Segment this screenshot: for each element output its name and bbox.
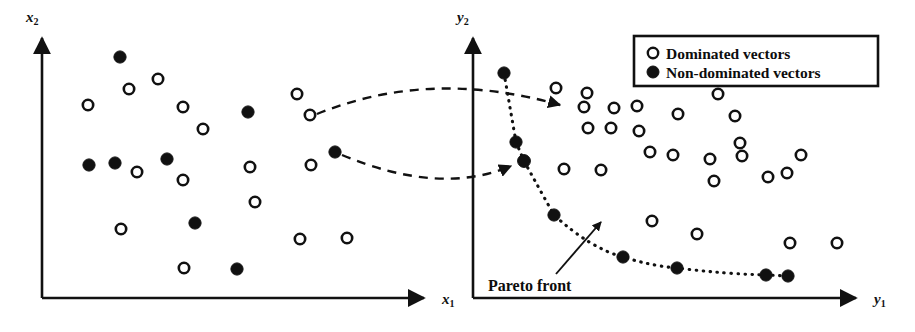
legend-marker-non-dominated-icon xyxy=(647,66,659,78)
x1-axis-label: x1 xyxy=(441,291,455,309)
data-point xyxy=(737,151,747,161)
data-point xyxy=(579,102,589,112)
data-point xyxy=(178,102,188,112)
data-point xyxy=(250,197,260,207)
data-point xyxy=(342,233,352,243)
data-point xyxy=(132,167,142,177)
data-point xyxy=(730,111,740,121)
data-point xyxy=(692,229,702,239)
data-point xyxy=(498,67,510,79)
data-point xyxy=(705,154,715,164)
data-point xyxy=(713,89,723,99)
data-point xyxy=(153,74,163,84)
data-point xyxy=(551,83,561,93)
data-point xyxy=(295,234,305,244)
data-point xyxy=(673,109,683,119)
data-point xyxy=(647,216,657,226)
data-point xyxy=(634,126,644,136)
data-point xyxy=(760,269,772,281)
data-point xyxy=(796,150,806,160)
data-point xyxy=(178,175,188,185)
data-point xyxy=(242,106,254,118)
data-point xyxy=(596,165,606,175)
data-point xyxy=(109,157,121,169)
data-point xyxy=(559,164,569,174)
data-point xyxy=(518,155,531,168)
decision-space-panel: x2 x1 xyxy=(25,9,455,309)
legend-marker-dominated-icon xyxy=(648,48,658,58)
data-point xyxy=(231,263,243,275)
data-point xyxy=(548,209,560,221)
data-point xyxy=(709,176,719,186)
pareto-front-label: Pareto front xyxy=(488,277,572,294)
data-point xyxy=(198,124,208,134)
data-point xyxy=(292,89,302,99)
pareto-front-annotation: Pareto front xyxy=(488,222,601,294)
data-point xyxy=(83,100,93,110)
dominated-mapping-arrow xyxy=(317,89,560,114)
data-point xyxy=(832,238,842,248)
data-point xyxy=(782,270,794,282)
data-point xyxy=(245,162,255,172)
data-point xyxy=(116,224,126,234)
data-point xyxy=(306,160,316,170)
decision-space-dominated-points xyxy=(83,74,352,273)
data-point xyxy=(785,238,795,248)
data-point xyxy=(763,172,773,182)
data-point xyxy=(329,146,341,158)
legend-label-dominated: Dominated vectors xyxy=(666,45,790,62)
data-point xyxy=(782,168,792,178)
pareto-front-leader-line xyxy=(556,222,601,274)
data-point xyxy=(632,101,642,111)
data-point xyxy=(305,110,315,120)
data-point xyxy=(189,217,201,229)
data-point xyxy=(161,153,173,165)
data-point xyxy=(83,159,95,171)
data-point xyxy=(671,262,683,274)
data-point xyxy=(617,251,629,263)
x2-axis-label: x2 xyxy=(25,9,39,27)
data-point xyxy=(606,123,616,133)
data-point xyxy=(510,136,522,148)
pareto-front-curve xyxy=(504,73,788,276)
figure-canvas: x2 x1 xyxy=(0,0,915,332)
objective-space-dominated-points xyxy=(551,83,842,248)
data-point xyxy=(124,84,134,94)
pareto-front-figure: x2 x1 xyxy=(0,0,915,332)
data-point xyxy=(179,263,189,273)
data-point xyxy=(609,103,619,113)
data-point xyxy=(114,51,126,63)
y2-axis-label: y2 xyxy=(455,9,469,27)
legend-label-non-dominated: Non-dominated vectors xyxy=(666,64,821,81)
data-point xyxy=(645,147,655,157)
non-dominated-mapping-arrow xyxy=(342,155,511,179)
data-point xyxy=(735,138,745,148)
y1-axis-label: y1 xyxy=(872,291,886,309)
data-point xyxy=(582,88,592,98)
legend: Dominated vectors Non-dominated vectors xyxy=(634,36,878,86)
data-point xyxy=(583,123,593,133)
data-point xyxy=(668,150,678,160)
